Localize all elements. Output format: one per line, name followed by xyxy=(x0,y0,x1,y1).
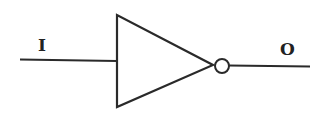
input-wire xyxy=(20,60,117,62)
buffer-triangle xyxy=(117,15,213,107)
not-gate-diagram: I O xyxy=(0,0,329,121)
output-label: O xyxy=(280,39,295,59)
output-wire xyxy=(229,66,310,67)
input-label: I xyxy=(38,35,46,55)
inversion-bubble xyxy=(215,59,229,73)
